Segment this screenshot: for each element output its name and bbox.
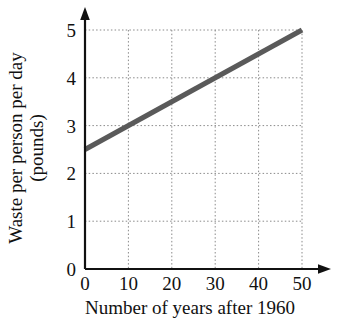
y-axis-title-line2: (pounds) bbox=[26, 114, 48, 182]
y-tick-label-1: 1 bbox=[67, 211, 77, 232]
y-tick-label-4: 4 bbox=[67, 68, 77, 89]
x-axis-title: Number of years after 1960 bbox=[85, 297, 295, 318]
x-tick-label-20: 20 bbox=[162, 273, 181, 294]
y-tick-label-3: 3 bbox=[67, 116, 77, 137]
chart-container: 0 1 2 3 4 5 0 10 20 30 40 50 Number of y… bbox=[0, 0, 340, 324]
y-axis-title-line1: Waste per person per day bbox=[5, 52, 26, 244]
x-tick-label-40: 40 bbox=[249, 273, 268, 294]
y-tick-label-2: 2 bbox=[67, 163, 77, 184]
y-tick-label-0: 0 bbox=[67, 259, 77, 280]
y-tick-label-5: 5 bbox=[67, 20, 77, 41]
x-tick-label-0: 0 bbox=[80, 273, 90, 294]
line-chart: 0 1 2 3 4 5 0 10 20 30 40 50 Number of y… bbox=[0, 0, 340, 324]
x-tick-label-50: 50 bbox=[293, 273, 312, 294]
x-tick-label-10: 10 bbox=[119, 273, 138, 294]
x-tick-label-30: 30 bbox=[206, 273, 225, 294]
